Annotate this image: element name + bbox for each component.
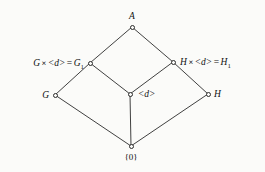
lattice-edge-A-G1	[90, 27, 132, 63]
node-label-G1-operand: G	[33, 58, 40, 68]
lattice-edge-d-zero	[130, 94, 131, 146]
equals-icon: =	[65, 58, 73, 68]
node-label-d: <d>	[138, 90, 155, 100]
node-label-H1: H×<d>=H1	[180, 58, 231, 70]
node-label-H1-subscript: 1	[227, 62, 230, 69]
equals-icon: =	[212, 57, 220, 67]
lattice-edge-G1-d	[90, 63, 130, 94]
lattice-edge-H-zero	[131, 94, 208, 146]
node-marker-d[interactable]	[128, 92, 133, 97]
angle-close-icon: >	[149, 89, 155, 99]
node-marker-zero[interactable]	[129, 144, 134, 149]
multiplication-icon: ×	[187, 57, 195, 67]
lattice-diagram: A G×<d>=G1 H×<d>=H1 G <d> H {0}	[0, 0, 265, 172]
node-label-H: H	[214, 90, 221, 100]
lattice-edge-A-H1	[132, 27, 173, 62]
node-marker-G1[interactable]	[88, 61, 93, 66]
node-label-zero: {0}	[124, 153, 137, 162]
node-label-G: G	[42, 91, 49, 101]
node-marker-H[interactable]	[206, 92, 211, 97]
lattice-edge-G-zero	[55, 95, 131, 146]
node-marker-H1[interactable]	[171, 60, 176, 65]
node-marker-G[interactable]	[53, 93, 58, 98]
node-marker-A[interactable]	[130, 25, 135, 30]
multiplication-icon: ×	[40, 58, 48, 68]
node-label-G1: G×<d>=G1	[33, 59, 84, 71]
node-label-A: A	[129, 12, 135, 22]
node-label-H1-operand: H	[180, 57, 187, 67]
node-label-G1-subscript: 1	[81, 63, 84, 70]
